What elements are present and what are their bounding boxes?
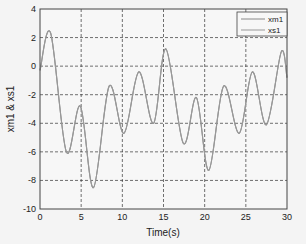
x-tick-label: 10: [117, 212, 127, 222]
y-tick-label: -10: [23, 204, 36, 214]
x-tick-label: 20: [200, 212, 210, 222]
y-tick-label: -4: [28, 118, 36, 128]
y-axis-ticks: -10-8-6-4-2024: [23, 4, 36, 214]
legend-label-xs1: xs1: [268, 26, 281, 35]
y-tick-label: -8: [28, 175, 36, 185]
x-tick-label: 0: [37, 212, 42, 222]
y-tick-label: -6: [28, 147, 36, 157]
x-axis-label: Time(s): [146, 227, 180, 238]
y-tick-label: -2: [28, 90, 36, 100]
x-tick-label: 25: [241, 212, 251, 222]
x-tick-label: 15: [158, 212, 168, 222]
y-tick-label: 0: [31, 61, 36, 71]
y-tick-label: 2: [31, 33, 36, 43]
x-axis-ticks: 051015202530: [37, 212, 292, 222]
line-chart: 051015202530 -10-8-6-4-2024 Time(s) xm1 …: [0, 0, 306, 244]
legend: xm1 xs1: [237, 12, 287, 36]
legend-label-xm1: xm1: [268, 15, 284, 24]
x-tick-label: 5: [79, 212, 84, 222]
y-tick-label: 4: [31, 4, 36, 14]
x-tick-label: 30: [282, 212, 292, 222]
y-axis-label: xm1 & xs1: [5, 85, 16, 132]
